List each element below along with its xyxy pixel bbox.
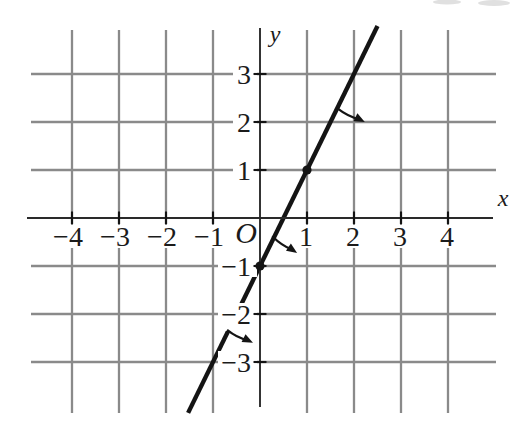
y-axis-label: y bbox=[268, 21, 281, 47]
x-tick-label: −4 bbox=[53, 221, 83, 252]
x-tick-label: 4 bbox=[440, 221, 454, 252]
coordinate-plane-figure: −4−3−2−11234321−1−2−3Oxy bbox=[0, 0, 515, 438]
x-tick-label: 1 bbox=[299, 221, 313, 252]
point-marker bbox=[255, 261, 264, 270]
y-tick-label: −2 bbox=[221, 299, 251, 330]
y-tick-label: −1 bbox=[221, 251, 251, 282]
y-tick-label: −3 bbox=[221, 347, 251, 378]
origin-label: O bbox=[235, 216, 257, 249]
y-tick-label: 3 bbox=[237, 59, 251, 90]
point-marker bbox=[302, 165, 311, 174]
x-tick-label: −1 bbox=[194, 221, 224, 252]
graph-svg: −4−3−2−11234321−1−2−3Oxy bbox=[0, 0, 515, 438]
x-tick-label: 3 bbox=[393, 221, 407, 252]
x-tick-label: −2 bbox=[147, 221, 177, 252]
x-tick-label: −3 bbox=[100, 221, 130, 252]
y-tick-label: 1 bbox=[237, 155, 251, 186]
y-tick-label: 2 bbox=[237, 107, 251, 138]
canvas-background bbox=[0, 0, 515, 438]
scan-artifact bbox=[478, 0, 510, 6]
x-axis-label: x bbox=[497, 185, 509, 211]
x-tick-label: 2 bbox=[346, 221, 360, 252]
